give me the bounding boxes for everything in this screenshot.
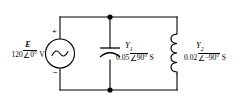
- y1-value: 0.05∠90° S: [116, 53, 168, 62]
- source-plus-sign: +: [52, 27, 57, 36]
- y2-angle-operator: ∠: [198, 54, 205, 62]
- source-magnitude: 120: [11, 50, 22, 59]
- y2-symbol: Y2: [196, 41, 240, 52]
- source-minus-sign: −: [53, 68, 58, 77]
- y1-angle-value: 90°: [137, 53, 148, 62]
- source-value: 120∠0° V: [4, 50, 52, 59]
- y2-label: Y2 0.02∠−90° S: [184, 41, 240, 62]
- junction-dot-bottom: [107, 87, 112, 92]
- inductor-coils: [171, 34, 177, 75]
- y2-subscript: 2: [201, 46, 204, 52]
- source-label: E 120∠0° V: [4, 41, 52, 59]
- source-angle-operator: ∠: [23, 52, 30, 60]
- junction-dot-top: [107, 14, 112, 19]
- y1-angle: ∠90°: [130, 53, 148, 62]
- source-unit: V: [39, 50, 44, 59]
- y2-value: 0.02∠−90° S: [184, 53, 240, 62]
- y1-subscript: 1: [130, 46, 133, 52]
- y1-unit: S: [150, 53, 154, 62]
- y1-symbol: Y1: [125, 41, 168, 52]
- source-angle-value: 0°: [30, 50, 37, 59]
- inductor-symbol: [171, 34, 177, 75]
- y2-angle: ∠−90°: [198, 53, 220, 62]
- source-symbol: E: [4, 41, 52, 49]
- y1-label: Y1 0.05∠90° S: [116, 41, 168, 62]
- y1-magnitude: 0.05: [116, 53, 129, 62]
- y2-magnitude: 0.02: [184, 53, 197, 62]
- y1-angle-operator: ∠: [130, 54, 137, 62]
- source-angle: ∠0°: [23, 50, 37, 59]
- y2-angle-value: −90°: [205, 53, 220, 62]
- circuit-diagram: + − E 120∠0° V Y1 0.05∠90° S Y2 0.02∠−90…: [0, 0, 240, 107]
- y2-unit: S: [222, 53, 226, 62]
